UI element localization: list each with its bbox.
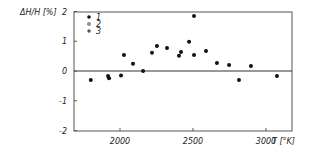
data-point (192, 53, 196, 57)
data-point (237, 78, 241, 82)
data-point (119, 73, 123, 77)
data-point (249, 64, 253, 68)
half-filled-circle-marker-icon (87, 29, 90, 32)
y-axis-title: ΔH/H [%] (19, 8, 57, 17)
data-point (165, 46, 169, 50)
data-point (122, 53, 126, 57)
data-point (107, 76, 111, 80)
legend-entry: 3 (87, 27, 101, 36)
legend-label: 3 (96, 27, 101, 36)
data-point (131, 62, 135, 66)
data-point (275, 74, 279, 78)
data-point (187, 40, 191, 44)
scatter-chart: 210-1-2 200025003000 ΔH/H [%] T [°K] 123 (0, 0, 314, 152)
x-axis-title: T [°K] (272, 137, 295, 146)
data-point (215, 61, 219, 65)
data-point (89, 78, 93, 82)
open-circle-marker-icon (87, 22, 90, 25)
filled-circle-marker-icon (87, 15, 91, 19)
data-point (141, 69, 145, 73)
data-point (155, 44, 159, 48)
y-tick-label: 1 (62, 37, 67, 46)
data-point (179, 50, 183, 54)
y-tick-label: 2 (62, 8, 67, 17)
data-point (177, 54, 181, 58)
data-point (204, 49, 208, 53)
y-tick-label: -2 (59, 127, 67, 136)
y-tick-label: -1 (59, 97, 67, 106)
x-tick-label: 2000 (110, 137, 130, 146)
x-tick-label: 2500 (183, 137, 203, 146)
data-point (192, 14, 196, 18)
y-tick-label: 0 (62, 67, 67, 76)
plot-frame (74, 12, 292, 131)
data-points (89, 14, 279, 82)
data-point (150, 51, 154, 55)
data-point (227, 63, 231, 67)
legend: 123 (87, 13, 101, 36)
